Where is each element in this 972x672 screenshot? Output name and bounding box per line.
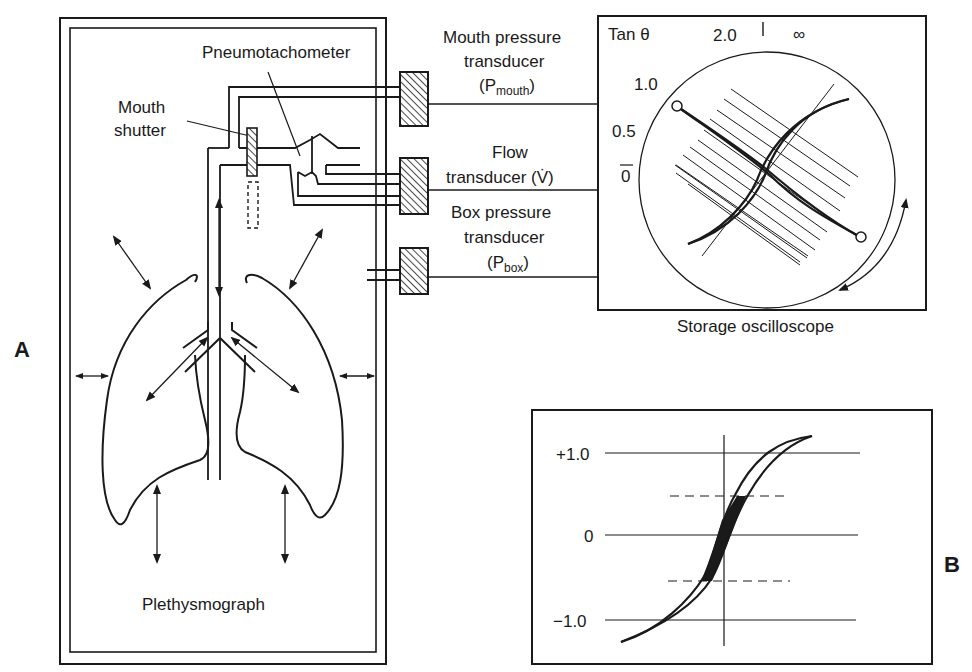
mouth-pressure-symbol: (Pmouth)	[479, 76, 535, 98]
mouth-shutter-label-line1: Mouth	[118, 98, 165, 117]
scale-0: 0	[621, 167, 630, 186]
mouth-shutter-open-position	[248, 182, 258, 228]
oscilloscope-caption: Storage oscilloscope	[677, 317, 834, 336]
y-label-plus-1: +1.0	[556, 445, 590, 464]
trace-end-marker	[856, 232, 866, 242]
storage-oscilloscope	[598, 16, 926, 310]
signal-wires	[428, 104, 598, 277]
trace-start-marker	[672, 101, 682, 111]
panel-b-gridlines	[605, 435, 860, 646]
y-label-minus-1: −1.0	[553, 612, 587, 631]
box-pressure-transducer	[400, 248, 428, 294]
mouth-shutter	[247, 128, 257, 176]
panel-a-label: A	[14, 337, 30, 362]
svg-text:Flow: Flow	[492, 143, 529, 162]
svg-text:Mouth pressure: Mouth pressure	[443, 28, 561, 47]
tan-theta-label: Tan θ	[608, 25, 650, 44]
rotation-arrow	[840, 200, 906, 290]
flow-transducer-label: Flow transducer (V̇)	[446, 143, 554, 187]
lungs	[102, 275, 342, 524]
pneumotachometer-leader	[268, 72, 300, 156]
mouth-pressure-transducer	[400, 72, 428, 126]
flow-transducer	[400, 158, 428, 214]
scale-infinity: ∞	[793, 25, 805, 44]
scale-0-5: 0.5	[612, 122, 636, 141]
figure-canvas: A B Plethysmograph Pneumotachometer Mout…	[0, 0, 972, 672]
scale-2-0: 2.0	[713, 26, 737, 45]
oscilloscope-screen	[639, 52, 895, 308]
y-label-0: 0	[584, 527, 593, 546]
plethysmograph-label: Plethysmograph	[142, 595, 265, 614]
panel-b-loop	[621, 436, 812, 642]
panel-b-label: B	[944, 552, 960, 577]
svg-text:transducer (V̇): transducer (V̇)	[446, 168, 554, 187]
svg-text:Box pressure: Box pressure	[451, 203, 551, 222]
box-pressure-transducer-label: Box pressure transducer (Pbox)	[451, 203, 551, 275]
pneumotachometer-label: Pneumotachometer	[202, 43, 351, 62]
mouth-shutter-leader	[187, 121, 250, 136]
scale-1-0: 1.0	[634, 75, 658, 94]
mouth-pressure-transducer-label: Mouth pressure transducer (Pmouth)	[443, 28, 561, 98]
airway-tubing	[208, 87, 400, 480]
box-pressure-symbol: (Pbox)	[487, 253, 529, 275]
mouth-shutter-label-line2: shutter	[114, 121, 166, 140]
expansion-arrows	[76, 200, 374, 562]
svg-text:transducer: transducer	[464, 228, 545, 247]
svg-text:transducer: transducer	[464, 52, 545, 71]
